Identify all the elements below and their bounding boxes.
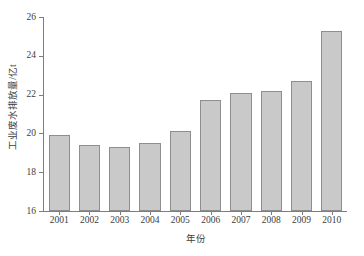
bar xyxy=(79,145,100,211)
x-axis-tick-label: 2005 xyxy=(171,216,190,226)
bar xyxy=(261,91,282,211)
y-axis-tick-label: 22 xyxy=(27,90,37,100)
x-axis-tick-label: 2003 xyxy=(110,216,129,226)
y-axis-title-text: 工业废水排放量/亿t xyxy=(5,64,19,149)
y-axis-tick-label: 26 xyxy=(27,13,37,23)
x-axis-tick-label: 2008 xyxy=(262,216,281,226)
y-axis-tick: 24 xyxy=(39,56,44,57)
y-axis-title: 工业废水排放量/亿t xyxy=(3,0,21,214)
x-axis-tick-label: 2010 xyxy=(322,216,341,226)
bar xyxy=(49,135,70,211)
x-axis-title: 年份 xyxy=(44,231,347,245)
bar xyxy=(291,81,312,211)
bar xyxy=(230,93,251,211)
y-axis-tick-label: 20 xyxy=(27,129,37,139)
y-axis-tick-label: 18 xyxy=(27,168,37,178)
y-axis-tick: 26 xyxy=(39,17,44,18)
plot-area: 1618202224262001200220032004200520062007… xyxy=(44,17,347,211)
y-axis-tick: 16 xyxy=(39,211,44,212)
x-axis-tick-label: 2009 xyxy=(292,216,311,226)
bar xyxy=(321,31,342,211)
y-axis-tick: 22 xyxy=(39,95,44,96)
x-axis-tick-label: 2004 xyxy=(141,216,160,226)
y-axis-tick-label: 24 xyxy=(27,52,37,62)
bar xyxy=(139,143,160,211)
bar-chart-figure: 工业废水排放量/亿t 16182022242620012002200320042… xyxy=(0,0,364,256)
x-axis-tick-label: 2001 xyxy=(50,216,69,226)
x-axis-tick-label: 2007 xyxy=(231,216,250,226)
y-axis-tick: 18 xyxy=(39,172,44,173)
x-axis-tick-label: 2006 xyxy=(201,216,220,226)
y-axis-tick-label: 16 xyxy=(27,207,37,217)
bar xyxy=(109,147,130,211)
x-axis-tick-label: 2002 xyxy=(80,216,99,226)
bar xyxy=(170,131,191,211)
bar xyxy=(200,100,221,211)
y-axis-tick: 20 xyxy=(39,133,44,134)
